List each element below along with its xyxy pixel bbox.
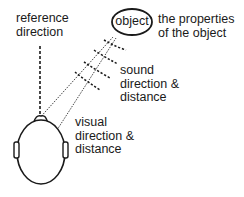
- left-ear-icon: [14, 142, 19, 158]
- visual-direction-label: visual direction & distance: [75, 116, 134, 157]
- right-ear-icon: [63, 142, 68, 158]
- sound-arc-3: [84, 62, 110, 78]
- sound-arc-1: [104, 40, 126, 50]
- object-label: object: [112, 14, 152, 28]
- sound-direction-label: sound direction & distance: [120, 64, 179, 105]
- object-properties-label: the properties of the object: [158, 13, 234, 40]
- sound-arc-4: [75, 72, 100, 90]
- sound-arc-2: [94, 50, 118, 64]
- head-outline: [17, 120, 65, 184]
- head-icon: [14, 116, 68, 184]
- reference-direction-label: reference direction: [16, 12, 69, 39]
